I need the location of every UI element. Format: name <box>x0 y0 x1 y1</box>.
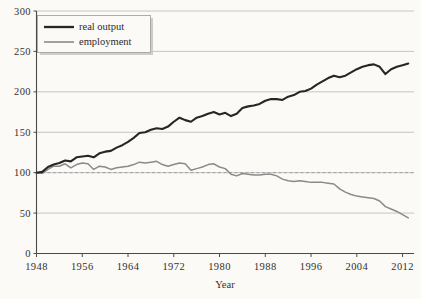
y-tick-label-150: 150 <box>14 127 31 138</box>
y-tick-label-250: 250 <box>14 46 31 57</box>
x-tick-label-1980: 1980 <box>208 261 231 272</box>
y-tick-label-100: 100 <box>14 167 31 178</box>
y-tick-label-0: 0 <box>25 248 31 259</box>
y-tick-label-300: 300 <box>14 6 31 17</box>
x-tick-label-1972: 1972 <box>162 261 185 272</box>
x-tick-label-1956: 1956 <box>71 261 94 272</box>
x-tick-label-1948: 1948 <box>25 261 48 272</box>
x-tick-label-1964: 1964 <box>117 261 140 272</box>
chart-figure: 050100150200250300 194819561964197219801… <box>0 0 421 299</box>
legend-label-real-output: real output <box>79 21 124 32</box>
legend-label-employment: employment <box>79 36 132 47</box>
line-chart-svg: 050100150200250300 194819561964197219801… <box>0 0 421 299</box>
x-tick-label-2012: 2012 <box>391 261 414 272</box>
y-tick-label-50: 50 <box>20 208 31 219</box>
x-tick-label-1996: 1996 <box>300 261 323 272</box>
x-tick-label-1988: 1988 <box>254 261 277 272</box>
y-tick-label-200: 200 <box>14 86 31 97</box>
chart-legend: real output employment <box>38 16 154 56</box>
x-tick-label-2004: 2004 <box>345 261 368 272</box>
x-tick-labels: 194819561964197219801988199620042012 <box>25 261 414 272</box>
x-axis-label: Year <box>215 279 235 290</box>
